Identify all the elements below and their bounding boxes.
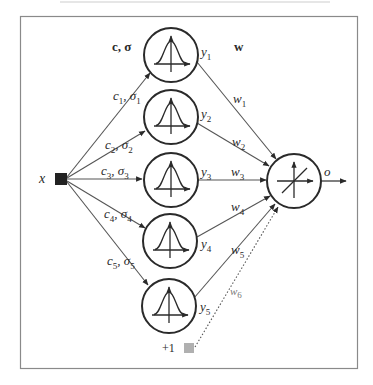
bias-label: +1 (162, 342, 175, 354)
weight-label-2: w2 (232, 135, 245, 152)
hidden-unit-5 (142, 279, 196, 333)
y-label-5: y5 (200, 300, 210, 317)
hidden-unit-3 (144, 153, 198, 207)
weight-label-3: w3 (231, 165, 244, 182)
weight-label-bias: w6 (230, 286, 242, 300)
edge-label-5: c5, σ5 (107, 254, 135, 271)
hidden-unit-2 (144, 90, 198, 144)
output-label: o (324, 165, 331, 178)
weight-label-1: w1 (233, 92, 246, 109)
hidden-unit-1 (144, 28, 198, 82)
output-unit (267, 154, 321, 208)
weight-label-5: w5 (231, 243, 244, 260)
edge-label-3: c3, σ3 (101, 164, 129, 181)
weights-header: w (234, 40, 243, 53)
weight-label-4: w4 (231, 200, 244, 217)
y-label-1: y1 (201, 45, 211, 62)
params-header: c, σ (112, 40, 131, 53)
edge-label-4: c4, σ4 (104, 207, 132, 224)
bias-node (184, 343, 194, 353)
input-node (55, 173, 67, 185)
y-label-4: y4 (201, 237, 211, 254)
edge-label-1: c1, σ1 (113, 89, 141, 106)
edge-label-2: c2, σ2 (105, 138, 133, 155)
input-label: x (39, 172, 45, 186)
hidden-unit-4 (143, 214, 197, 268)
y-label-3: y3 (201, 165, 211, 182)
rbf-network-diagram (0, 0, 373, 385)
y-label-2: y2 (201, 107, 211, 124)
